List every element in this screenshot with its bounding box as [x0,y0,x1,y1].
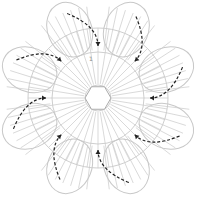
petal [39,132,101,198]
petal [132,95,198,157]
arrowhead-icon [150,96,154,101]
arrowhead-icon [96,42,101,46]
center-ring [85,87,111,110]
flower-chart [0,0,198,198]
arrowhead-icon [42,96,46,101]
arrowhead-icon [96,150,101,154]
crochet-diagram: 1 [0,0,198,198]
round-label: 1 [89,55,93,62]
